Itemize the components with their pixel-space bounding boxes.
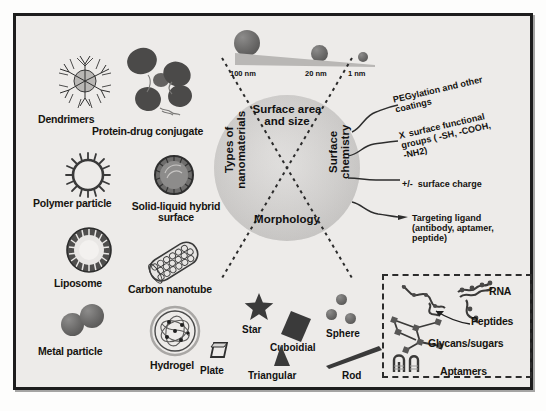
label-polymer-particle: Polymer particle <box>33 198 112 209</box>
quadrant-surface-area-size-label: Surface area and size <box>252 103 321 127</box>
label-dendrimers: Dendrimers <box>38 114 94 125</box>
label-rna: RNA <box>489 286 511 297</box>
shape-cuboidial-icon <box>278 309 314 345</box>
shape-rod-icon <box>324 344 384 370</box>
shape-sphere-icon-b <box>326 309 337 320</box>
annotation-pegylation-label: PEGylation and other coatings <box>392 74 483 114</box>
label-hydrogel: Hydrogel <box>150 360 194 371</box>
metal-particle-icon-b <box>80 304 104 328</box>
label-aptamers: Aptamers <box>440 366 487 377</box>
label-peptides: Peptides <box>471 316 513 327</box>
label-rod: Rod <box>342 370 361 381</box>
label-glycans-sugars: Glycans/sugars <box>428 338 503 349</box>
dendrimers-icon <box>56 52 114 110</box>
label-metal-particle: Metal particle <box>38 346 102 357</box>
annotation-targeting-ligand: Targeting ligand (antibody, aptamer, pep… <box>412 213 530 243</box>
quadrant-types-of-nanomaterials: Types of nanomaterials <box>224 90 248 210</box>
annotation-surface-charge: +/-surface charge <box>402 179 482 189</box>
annotation-surface-charge-label: surface charge <box>418 179 482 189</box>
quadrant-morphology-label: Morphology <box>254 213 320 225</box>
shape-star-icon <box>244 292 274 322</box>
figure-frame: Dendrimers Protein-drug conjugate <box>13 13 533 390</box>
figure-panel: Dendrimers Protein-drug conjugate <box>16 16 530 387</box>
annotation-surface-charge-marker: +/- <box>402 179 413 189</box>
label-triangular: Triangular <box>248 370 296 381</box>
label-sphere: Sphere <box>326 328 360 339</box>
shape-sphere-icon-a <box>336 294 347 305</box>
polymer-particle-icon <box>63 150 113 200</box>
annotation-targeting-ligand-label: Targeting ligand (antibody, aptamer, pep… <box>412 213 494 243</box>
label-plate: Plate <box>200 365 224 376</box>
quadrant-morphology: Morphology <box>222 214 352 226</box>
label-carbon-nanotube: Carbon nanotube <box>128 284 212 295</box>
shape-sphere-icon-c <box>345 313 356 324</box>
surface-chemistry-connectors <box>346 98 416 228</box>
shape-triangular-icon <box>268 343 294 369</box>
shape-plate-icon <box>208 340 232 364</box>
label-liposome: Liposome <box>54 278 102 289</box>
hydrogel-icon <box>148 304 202 358</box>
liposome-icon <box>63 224 115 276</box>
label-star: Star <box>242 324 261 335</box>
figure-canvas: Dendrimers Protein-drug conjugate <box>0 0 546 411</box>
quadrant-types-of-nanomaterials-label: Types of nanomaterials <box>223 111 247 189</box>
annotation-pegylation: PEGylation and other coatings <box>392 74 486 114</box>
